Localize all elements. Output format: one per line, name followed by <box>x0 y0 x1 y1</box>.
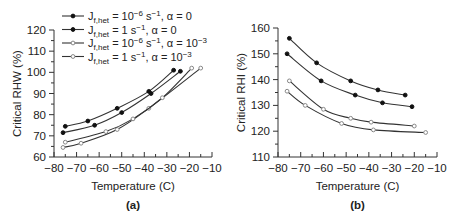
y-tick-label: 120 <box>251 125 270 137</box>
series-line <box>287 79 416 128</box>
data-point-marker <box>424 131 428 135</box>
data-point-marker <box>172 68 176 72</box>
data-point-marker <box>131 117 135 121</box>
series-line <box>63 66 193 144</box>
data-point-marker <box>381 101 385 105</box>
figure: −80−70−60−50−40−30−20−106070809010011012… <box>0 0 451 224</box>
x-axis-title: Temperature (C) <box>91 180 175 192</box>
y-tick-label: 100 <box>27 66 46 78</box>
data-point-marker <box>61 146 65 150</box>
y-axis-title: Critical RHW (%) <box>11 50 23 137</box>
data-point-marker <box>147 89 151 93</box>
data-point-marker <box>199 66 203 70</box>
data-point-marker <box>86 119 90 123</box>
y-tick-label: 150 <box>251 48 270 60</box>
data-point-marker <box>340 122 344 126</box>
data-point-marker <box>322 107 326 111</box>
y-tick-label: 130 <box>251 99 270 111</box>
panel-label: (a) <box>126 199 140 211</box>
data-point-marker <box>179 69 183 73</box>
data-point-marker <box>120 111 124 115</box>
data-point-marker <box>319 79 323 83</box>
y-tick-label: 160 <box>251 22 270 34</box>
y-tick-label: 70 <box>33 130 46 142</box>
data-point-marker <box>63 140 67 144</box>
series-line <box>287 36 407 97</box>
data-point-marker <box>287 79 291 83</box>
y-tick-label: 80 <box>33 109 46 121</box>
x-tick-label: −80 <box>44 162 64 174</box>
x-tick-label: −80 <box>268 162 288 174</box>
data-point-marker <box>353 93 357 97</box>
x-tick-label: −30 <box>382 162 402 174</box>
data-point-marker <box>61 131 65 135</box>
data-point-marker <box>104 130 108 134</box>
x-tick-label: −70 <box>291 162 311 174</box>
series-line <box>63 68 175 128</box>
data-point-marker <box>93 123 97 127</box>
x-tick-label: −30 <box>157 162 177 174</box>
panel-label: (b) <box>350 199 365 211</box>
data-point-marker <box>303 104 307 108</box>
x-tick-label: −50 <box>336 162 356 174</box>
data-point-marker <box>287 36 291 40</box>
legend-item: Jf,het = 1 s−1, α = 10−3 <box>62 50 192 66</box>
y-tick-label: 110 <box>252 151 270 163</box>
x-tick-label: −70 <box>67 162 87 174</box>
data-point-marker <box>190 66 194 70</box>
data-point-marker <box>63 124 67 128</box>
y-tick-label: 60 <box>33 151 46 163</box>
data-point-marker <box>79 141 83 145</box>
data-point-marker <box>160 96 164 100</box>
data-point-marker <box>315 61 319 65</box>
x-tick-label: −10 <box>202 162 222 174</box>
x-tick-label: −60 <box>89 162 109 174</box>
y-tick-label: 110 <box>28 45 46 57</box>
data-point-marker <box>369 120 373 124</box>
x-tick-label: −10 <box>427 162 447 174</box>
legend: Jf,het = 10−6 s−1, α = 0Jf,het = 1 s−1, … <box>62 9 208 66</box>
y-tick-label: 120 <box>27 24 46 36</box>
data-point-marker <box>410 105 414 109</box>
x-tick-label: −20 <box>180 162 200 174</box>
panel-b: −80−70−60−50−40−30−20−101101201301401501… <box>235 22 447 211</box>
x-tick-label: −50 <box>112 162 132 174</box>
y-axis-title: Critical RHI (%) <box>235 53 247 132</box>
data-point-marker <box>115 106 119 110</box>
data-point-marker <box>285 89 289 93</box>
data-point-marker <box>285 52 289 56</box>
data-point-marker <box>349 116 353 120</box>
data-point-marker <box>376 88 380 92</box>
data-point-marker <box>403 93 407 97</box>
x-tick-label: −20 <box>405 162 425 174</box>
x-tick-label: −40 <box>359 162 379 174</box>
y-tick-label: 90 <box>33 88 46 100</box>
x-tick-label: −40 <box>135 162 155 174</box>
data-point-marker <box>412 124 416 128</box>
x-axis-title: Temperature (C) <box>316 180 400 192</box>
data-point-marker <box>349 79 353 83</box>
data-point-marker <box>372 128 376 132</box>
x-tick-label: −60 <box>314 162 334 174</box>
y-tick-label: 140 <box>251 74 270 86</box>
